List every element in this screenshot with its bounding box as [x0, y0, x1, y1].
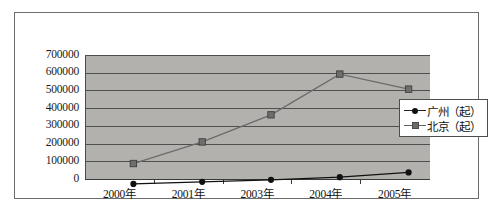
gridline: [86, 108, 430, 109]
x-axis-tick-mark: [154, 179, 155, 184]
x-axis-tick-label: 2005年: [355, 185, 435, 201]
chart-legend: 广州（起） 北京（起）: [399, 99, 488, 137]
legend-item-beijing: 北京（起）: [403, 118, 481, 133]
x-axis-tick-mark: [291, 179, 292, 184]
legend-label-beijing: 北京（起）: [427, 118, 481, 134]
y-axis-tick-label: 700000: [15, 48, 79, 60]
x-axis-tick-mark: [223, 179, 224, 184]
gridline: [86, 55, 430, 56]
chart-frame: 7000006000005000004000003000002000001000…: [14, 12, 479, 199]
legend-item-guangzhou: 广州（起）: [403, 103, 481, 118]
y-axis-tick-label: 100000: [15, 154, 79, 166]
gridline: [86, 90, 430, 91]
gridline: [86, 73, 430, 74]
legend-label-guangzhou: 广州（起）: [427, 103, 481, 119]
x-axis-tick-mark: [360, 179, 361, 184]
gridline: [86, 161, 430, 162]
y-axis-tick-label: 400000: [15, 101, 79, 113]
chart-figure: 7000006000005000004000003000002000001000…: [0, 0, 499, 216]
y-axis-tick-label: 200000: [15, 136, 79, 148]
legend-key-beijing-icon: [403, 120, 427, 132]
plot-area: [85, 55, 430, 180]
y-axis-tick-label: 600000: [15, 65, 79, 77]
gridline: [86, 126, 430, 127]
y-axis-tick-label: 500000: [15, 83, 79, 95]
y-axis-tick-label: 300000: [15, 118, 79, 130]
gridline: [86, 144, 430, 145]
legend-key-guangzhou-icon: [403, 105, 427, 117]
y-axis-tick-label: 0: [15, 172, 79, 184]
